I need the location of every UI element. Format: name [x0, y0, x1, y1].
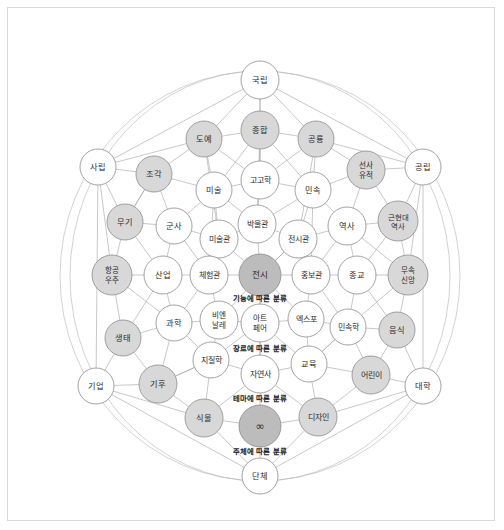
edge-gongnip-geunhyeondae: [406, 183, 415, 203]
node-gihu[interactable]: 기후: [139, 365, 177, 403]
node-jijilhak[interactable]: 지질학: [193, 342, 229, 378]
node-design[interactable]: 디자인: [299, 398, 337, 436]
node-misulgwan[interactable]: 미술관: [200, 220, 238, 258]
node-label-yeoksa: 역사: [339, 221, 355, 231]
edge-minsok-yeoksa: [325, 203, 334, 212]
node-label-jayeonsa: 자연사: [250, 370, 272, 379]
node-label-biennale: 비엔날레: [212, 310, 226, 329]
node-biennale[interactable]: 비엔날레: [200, 301, 238, 339]
node-label-gogohak: 고고학: [250, 175, 272, 185]
node-sarip[interactable]: 사립: [80, 149, 116, 185]
node-giup[interactable]: 기업: [78, 368, 114, 404]
edge-gyoyuk-minsokhak: [322, 339, 335, 351]
node-yeoksa[interactable]: 역사: [328, 207, 366, 245]
node-label-saneop: 산업: [155, 270, 171, 280]
node-danche[interactable]: 단체: [242, 458, 278, 494]
edge-musok-minsokhak: [362, 288, 393, 315]
edge-gungnip-doye: [216, 94, 247, 126]
node-mugi[interactable]: 무기: [107, 204, 143, 240]
edge-gihu-sikmul: [173, 395, 188, 406]
edge-gwahak-jijilhak: [187, 336, 199, 348]
node-jeonsigwan[interactable]: 전시관: [279, 220, 317, 258]
node-label-jijilhak: 지질학: [201, 355, 223, 365]
node-sikmul[interactable]: 식물: [185, 399, 223, 437]
node-label-jogak: 조각: [146, 169, 162, 179]
edge-geunhyeondae-yeoksa: [366, 223, 378, 224]
node-label-bangmulgwan: 박물관: [247, 219, 269, 229]
edge-jayeonsa-gyoyuk: [279, 368, 292, 371]
node-saneop[interactable]: 산업: [144, 256, 182, 294]
edge-mugi-hanggong: [117, 239, 121, 255]
edge-yeoksa-hongbogwan: [322, 241, 336, 259]
edge-gwahak-biennale: [192, 321, 200, 322]
node-jonggyo[interactable]: 종교: [338, 256, 376, 294]
node-gunsa[interactable]: 군사: [156, 208, 192, 244]
node-gyoyuk[interactable]: 교육: [291, 346, 327, 382]
node-eumsik[interactable]: 음식: [379, 312, 415, 348]
node-musok[interactable]: 무속신앙: [388, 255, 428, 295]
edge-gongnyong-gogohak: [275, 150, 301, 169]
node-doye[interactable]: 도예: [186, 121, 222, 157]
node-hongbogwan[interactable]: 홍보관: [292, 256, 330, 294]
node-label-minsok: 민속: [305, 185, 321, 195]
node-seonsayujeok[interactable]: 선사유적: [347, 151, 385, 189]
node-label-gwahak: 과학: [166, 318, 182, 328]
node-minsok[interactable]: 민속: [295, 172, 331, 208]
node-gongnyong[interactable]: 공룡: [298, 121, 334, 157]
node-minsokhak[interactable]: 민속학: [330, 309, 366, 345]
node-misul[interactable]: 미술: [196, 172, 232, 208]
node-gungnip[interactable]: 국립: [241, 61, 279, 99]
edge-musok-eumsik: [401, 295, 405, 313]
edge-saengtae-giup: [105, 354, 114, 371]
edge-gyoyuk-eorini: [327, 367, 353, 372]
edge-misul-gunsa: [187, 202, 200, 214]
node-bangmulgwan[interactable]: 박물관: [238, 205, 276, 243]
node-infinity[interactable]: ∞: [239, 405, 281, 447]
node-label-jonghap: 종합: [252, 125, 268, 135]
node-label-giup: 기업: [88, 381, 104, 391]
edge-giup-gihu: [114, 385, 139, 386]
node-gogohak[interactable]: 고고학: [241, 161, 279, 199]
edge-eorini-design: [333, 387, 356, 405]
node-artfair[interactable]: 아트페어: [241, 304, 279, 342]
edge-misulgwan-jeonsi: [233, 252, 244, 262]
node-hanggong[interactable]: 항공우주: [92, 255, 132, 295]
node-label-jeonsi: 전시: [252, 270, 268, 280]
node-label-sarip: 사립: [90, 162, 106, 172]
node-label-hongbogwan: 홍보관: [301, 270, 323, 280]
node-jeonsi[interactable]: 전시: [239, 254, 281, 296]
edge-gungnip-gongnyong: [273, 94, 304, 126]
edge-eumsik-eorini: [381, 346, 388, 359]
edge-jonghap-doye: [222, 133, 241, 136]
edge-jonggyo-eumsik: [368, 290, 386, 315]
edge-expo-gyoyuk: [307, 337, 308, 346]
edge-bangmulgwan-jeonsigwan: [275, 231, 280, 233]
node-saengtae[interactable]: 생태: [105, 320, 141, 356]
edge-seonsayujeok-yeoksa: [353, 188, 360, 208]
node-label-cheheomgwan: 체험관: [199, 270, 221, 280]
node-geunhyeondae[interactable]: 근현대역사: [378, 201, 418, 241]
edge-mugi-saneop: [135, 237, 151, 260]
edge-hongbogwan-minsokhak: [322, 290, 338, 312]
node-label-gunsa: 군사: [166, 221, 182, 231]
edge-gunsa-misulgwan: [191, 231, 200, 234]
edge-saengtae-gwahak: [140, 328, 156, 333]
node-jogak[interactable]: 조각: [136, 156, 172, 192]
edge-jeonsi-jeonsigwan: [275, 252, 284, 260]
edge-giup-danche: [112, 395, 244, 468]
group-theme: 테마에 따른 분류: [233, 394, 287, 403]
node-label-daehak: 대학: [415, 381, 431, 391]
node-cheheomgwan[interactable]: 체험관: [190, 256, 228, 294]
node-gongnip[interactable]: 공립: [405, 149, 441, 185]
edge-jijilhak-jayeonsa: [228, 365, 241, 369]
node-daehak[interactable]: 대학: [405, 368, 441, 404]
edge-minsok-bangmulgwan: [273, 199, 297, 214]
edge-saneop-saengtae: [133, 291, 153, 323]
edge-expo-minsokhak: [324, 322, 331, 323]
node-gwahak[interactable]: 과학: [156, 305, 192, 341]
node-eorini[interactable]: 어린이: [352, 356, 390, 394]
diagram-frame: 국립종합도예공룡사립조각선사유적공립고고학미술민속근현대역사무기군사박물관역사미…: [7, 7, 495, 521]
node-jonghap[interactable]: 종합: [241, 111, 279, 149]
node-jayeonsa[interactable]: 자연사: [241, 355, 279, 393]
node-expo[interactable]: 엑스포: [288, 301, 324, 337]
